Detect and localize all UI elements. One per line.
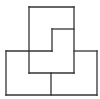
puzzle-diagram xyxy=(0,0,100,99)
diagram-lines xyxy=(6,7,97,95)
